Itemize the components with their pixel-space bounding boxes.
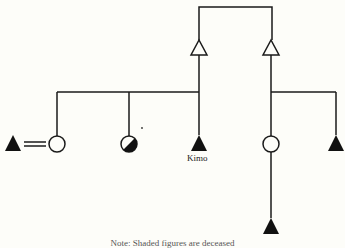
cousin-male-filled-triangle-icon bbox=[328, 135, 344, 151]
parent-sibling-line bbox=[199, 7, 272, 40]
annotation-dot-icon bbox=[141, 127, 143, 129]
sibling-female-open-circle-icon bbox=[49, 136, 65, 152]
spouse-male-filled-triangle-icon bbox=[5, 135, 21, 151]
kimo-filled-triangle-icon bbox=[191, 135, 207, 151]
parent-1-open-triangle-icon bbox=[191, 40, 207, 55]
sibling-female-half-shaded-circle-icon bbox=[121, 136, 137, 152]
cousin-female-open-circle-icon bbox=[263, 136, 279, 152]
parent-2-open-triangle-icon bbox=[263, 40, 279, 55]
ego-label: Kimo bbox=[187, 153, 208, 163]
diagram-caption: Note: Shaded figures are deceased bbox=[0, 238, 345, 248]
child-male-filled-triangle-icon bbox=[263, 218, 279, 234]
